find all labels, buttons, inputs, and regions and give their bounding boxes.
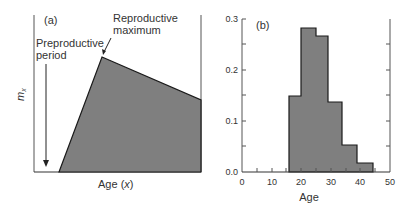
annotation-reproductive: Reproductive: [113, 12, 178, 24]
figure: (a) Reproductive maximum Preproductive p…: [0, 0, 407, 210]
fecundity-histogram: [289, 28, 373, 172]
svg-text:0.3: 0.3: [225, 14, 238, 24]
arrow-reproductive-max: [104, 38, 111, 52]
svg-text:0: 0: [239, 177, 244, 187]
panel-a-label: (a): [44, 14, 57, 26]
mx-area: [59, 57, 201, 172]
svg-text:30: 30: [326, 177, 336, 187]
svg-text:20: 20: [296, 177, 306, 187]
annotation-period: period: [36, 49, 67, 61]
svg-text:0.1: 0.1: [225, 116, 238, 126]
svg-text:0.2: 0.2: [225, 65, 238, 75]
panel-b-label: (b): [256, 19, 269, 31]
panel-a: (a) Reproductive maximum Preproductive p…: [14, 12, 201, 190]
panel-b-xlabel: Age: [299, 191, 319, 203]
panel-a-ylabel: mx: [14, 88, 27, 101]
panel-b: (b) 0.0 0.1 0.2 0.3 0 10 20 30 40 50 Age: [225, 14, 395, 203]
svg-text:50: 50: [385, 177, 395, 187]
svg-text:0.0: 0.0: [225, 167, 238, 177]
panel-b-yticklabels: 0.0 0.1 0.2 0.3: [225, 14, 238, 177]
svg-text:10: 10: [267, 177, 277, 187]
annotation-preproductive: Preproductive: [36, 37, 104, 49]
arrowhead-down-icon: [43, 160, 49, 167]
annotation-maximum: maximum: [113, 24, 161, 36]
panel-a-xlabel: Age (x): [98, 178, 133, 190]
panel-b-xticklabels: 0 10 20 30 40 50: [239, 177, 395, 187]
svg-text:40: 40: [355, 177, 365, 187]
